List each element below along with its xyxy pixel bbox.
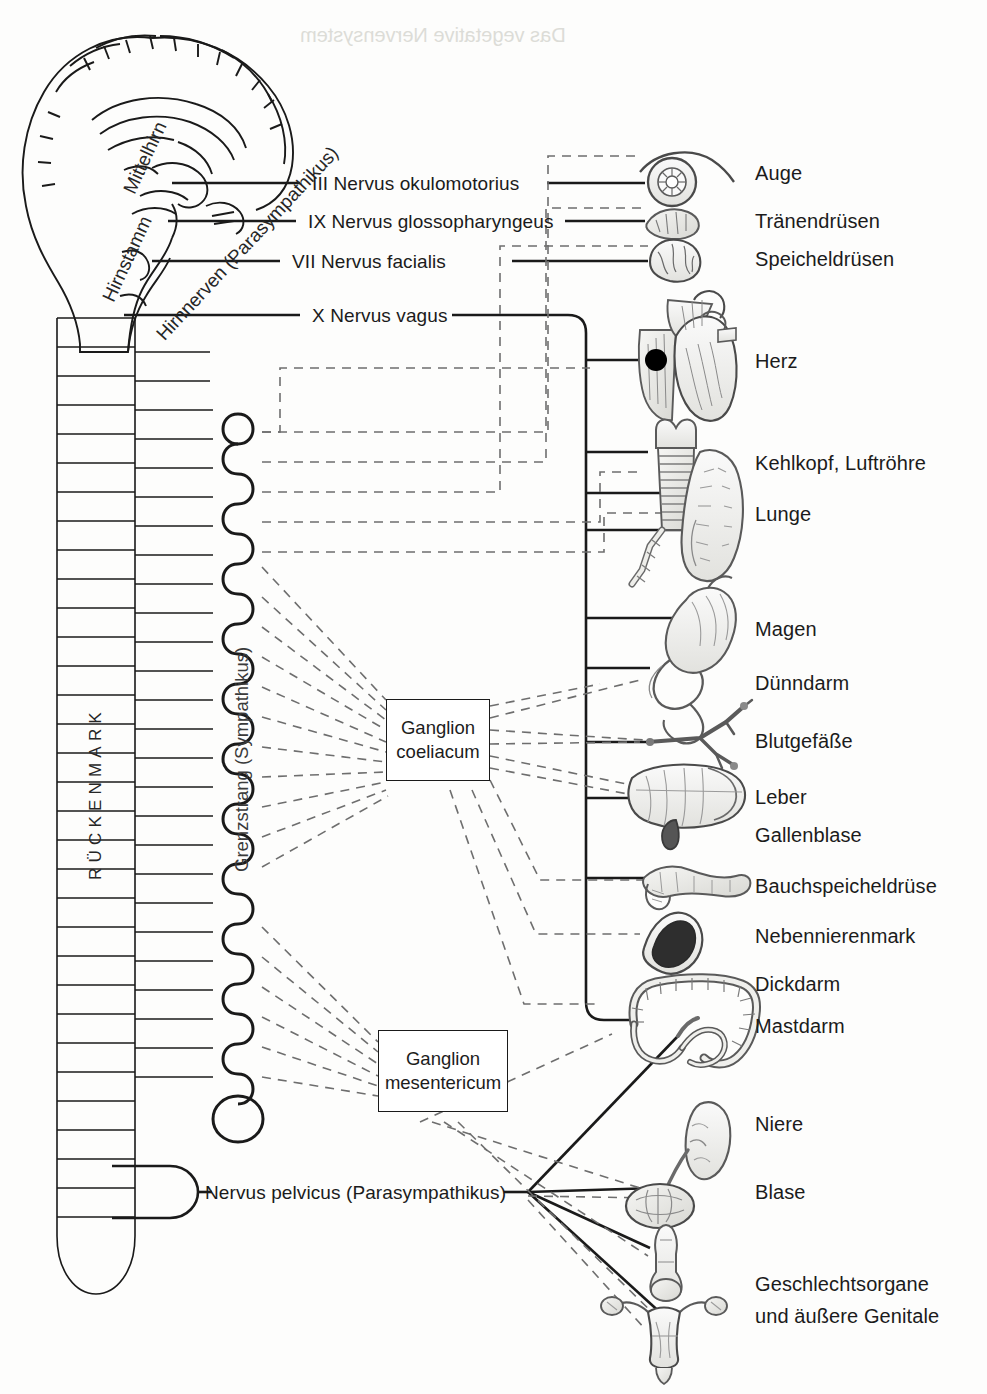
salivary-gland-icon xyxy=(650,240,700,282)
label-mittelhirn: Mittelhirn xyxy=(119,118,172,197)
heart-icon xyxy=(639,291,737,421)
label-nervus-vagus: X Nervus vagus xyxy=(312,304,448,327)
organ-label-dickdarm: Dickdarm xyxy=(755,972,840,996)
organ-label-kehlkopf-luftroehre: Kehlkopf, Luftröhre xyxy=(755,451,926,475)
label-rueckenmark: RÜCKENMARK xyxy=(86,707,106,880)
ganglion-coeliacum-line2: coeliacum xyxy=(396,740,479,764)
ganglion-mesentericum-line1: Ganglion xyxy=(406,1047,480,1071)
blood-vessel-icon xyxy=(646,700,752,770)
ganglion-coeliacum-box: Ganglion coeliacum xyxy=(386,699,490,781)
large-intestine-icon xyxy=(632,978,756,1065)
trachea-icon xyxy=(632,419,706,584)
organ-label-nebennierenmark: Nebennierenmark xyxy=(755,924,915,948)
organ-label-speicheldruesen: Speicheldrüsen xyxy=(755,247,894,271)
liver-icon xyxy=(628,765,745,850)
rectum-icon xyxy=(678,1018,725,1065)
organ-label-niere: Niere xyxy=(755,1112,803,1136)
eye-icon xyxy=(640,152,734,206)
brain-outline xyxy=(23,36,293,353)
vagus-organ-branches xyxy=(586,360,712,878)
organ-label-auge: Auge xyxy=(755,161,802,185)
ganglion-coeliacum-line1: Ganglion xyxy=(401,716,475,740)
organ-label-blutgefaesse: Blutgefäße xyxy=(755,729,853,753)
adrenal-medulla-icon xyxy=(643,913,702,974)
ganglion-mesentericum-line2: mesentericum xyxy=(385,1071,501,1095)
label-nervus-facialis: VII Nervus facialis xyxy=(292,250,446,273)
stomach-icon xyxy=(649,576,736,743)
kidney-icon xyxy=(664,1102,730,1194)
organ-label-duenndarm: Dünndarm xyxy=(755,671,849,695)
heart-synapse-marker xyxy=(645,349,667,371)
label-nervus-okulomotorius: III Nervus okulomotorius xyxy=(312,172,519,195)
label-grenzstrang: Grenzstrang (Sympathikus) xyxy=(231,647,253,872)
bladder-icon xyxy=(626,1184,694,1238)
genital-organs-icon xyxy=(601,1225,727,1384)
organ-label-lunge: Lunge xyxy=(755,502,811,526)
organ-label-geschlechtsorgane: Geschlechtsorgane xyxy=(755,1272,929,1296)
organ-label-bauchspeicheldruese: Bauchspeicheldrüse xyxy=(755,874,937,898)
organ-label-leber: Leber xyxy=(755,785,807,809)
lacrimal-gland-icon xyxy=(646,209,699,239)
label-nervus-pelvicus: Nervus pelvicus (Parasympathikus) xyxy=(205,1181,506,1204)
ganglion-mesentericum-box: Ganglion mesentericum xyxy=(378,1030,508,1112)
organ-label-traenendruesen: Tränendrüsen xyxy=(755,209,880,233)
organ-label-herz: Herz xyxy=(755,349,798,373)
label-hirnstamm: Hirnstamm xyxy=(98,213,157,306)
pancreas-icon xyxy=(643,867,750,910)
gallbladder-icon xyxy=(662,820,679,849)
lung-icon xyxy=(682,450,743,581)
organ-label-blase: Blase xyxy=(755,1180,806,1204)
spinal-nerve-roots xyxy=(135,352,213,1077)
organ-label-mastdarm: Mastdarm xyxy=(755,1014,845,1038)
page-showthrough-text: Das vegetative Nervensystem xyxy=(300,24,566,47)
anatomy-diagram-page: Das vegetative Nervensystem xyxy=(0,0,987,1394)
label-nervus-glossopharyngeus: IX Nervus glossopharyngeus xyxy=(308,210,554,233)
organ-label-geschlechtsorgane-line2: und äußere Genitale xyxy=(755,1304,939,1328)
organ-label-gallenblase: Gallenblase xyxy=(755,823,862,847)
organ-label-magen: Magen xyxy=(755,617,817,641)
